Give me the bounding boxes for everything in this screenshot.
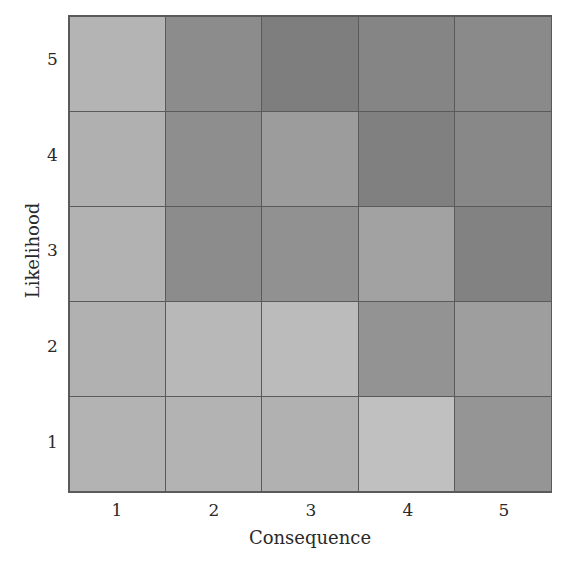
matrix-cell-L5-C4 xyxy=(358,16,455,112)
matrix-cell-L4-C4 xyxy=(358,111,455,207)
y-tick-2: 2 xyxy=(47,336,67,356)
matrix-cell-L5-C5 xyxy=(454,16,551,112)
x-tick-3: 3 xyxy=(296,500,326,520)
matrix-cell-L1-C2 xyxy=(165,396,262,492)
matrix-cell-L1-C1 xyxy=(69,396,166,492)
matrix-cell-L1-C4 xyxy=(358,396,455,492)
matrix-cell-L5-C2 xyxy=(165,16,262,112)
matrix-cell-L3-C1 xyxy=(69,206,166,302)
matrix-cell-L3-C3 xyxy=(261,206,358,302)
y-tick-1: 1 xyxy=(47,432,67,452)
matrix-cell-L2-C5 xyxy=(454,301,551,397)
matrix-cell-L3-C2 xyxy=(165,206,262,302)
matrix-cell-L5-C1 xyxy=(69,16,166,112)
matrix-cell-L4-C2 xyxy=(165,111,262,207)
matrix-cell-L3-C4 xyxy=(358,206,455,302)
matrix-cell-L2-C2 xyxy=(165,301,262,397)
matrix-cell-L5-C3 xyxy=(261,16,358,112)
matrix-cell-L4-C1 xyxy=(69,111,166,207)
matrix-cell-L4-C3 xyxy=(261,111,358,207)
x-tick-1: 1 xyxy=(102,500,132,520)
y-tick-4: 4 xyxy=(47,145,67,165)
risk-matrix-grid xyxy=(68,15,552,493)
matrix-cell-L2-C4 xyxy=(358,301,455,397)
matrix-cell-L4-C5 xyxy=(454,111,551,207)
x-tick-4: 4 xyxy=(393,500,423,520)
x-axis-label: Consequence xyxy=(68,527,552,548)
x-tick-2: 2 xyxy=(199,500,229,520)
x-tick-5: 5 xyxy=(489,500,519,520)
matrix-cell-L2-C1 xyxy=(69,301,166,397)
y-axis-label: Likelihood xyxy=(22,191,43,311)
matrix-cell-L3-C5 xyxy=(454,206,551,302)
y-tick-5: 5 xyxy=(47,49,67,69)
matrix-cell-L1-C3 xyxy=(261,396,358,492)
matrix-cell-L1-C5 xyxy=(454,396,551,492)
y-tick-3: 3 xyxy=(47,240,67,260)
matrix-cell-L2-C3 xyxy=(261,301,358,397)
